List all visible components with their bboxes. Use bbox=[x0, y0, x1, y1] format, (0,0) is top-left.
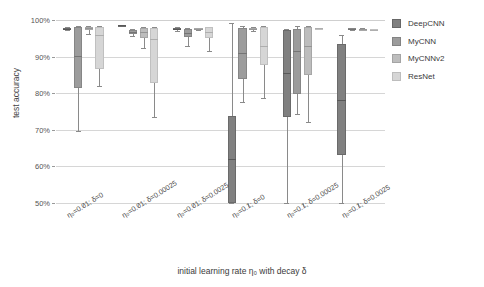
y-tick-label: 50% bbox=[16, 199, 50, 208]
whisker-cap-low bbox=[185, 46, 190, 47]
y-tick-label: 60% bbox=[16, 162, 50, 171]
boxplot-median bbox=[283, 73, 291, 74]
boxplot-median bbox=[249, 29, 257, 30]
boxplot-median bbox=[129, 32, 137, 33]
boxplot-median bbox=[260, 46, 268, 47]
y-tick-mark bbox=[52, 203, 55, 204]
gridline bbox=[56, 93, 385, 94]
gridline bbox=[56, 57, 385, 58]
gridline bbox=[56, 203, 385, 204]
whisker-cap-low bbox=[229, 203, 234, 204]
legend-item-resnet[interactable]: ResNet bbox=[392, 69, 444, 84]
whisker-cap-low bbox=[97, 86, 102, 87]
x-tick-label: η₀=0.01; δ=0 bbox=[65, 190, 105, 220]
boxplot-median bbox=[238, 53, 246, 54]
legend-swatch-icon bbox=[392, 37, 401, 46]
gridline bbox=[56, 20, 385, 21]
legend-item-mycnn[interactable]: MyCNN bbox=[392, 34, 444, 49]
boxplot-median bbox=[173, 29, 181, 30]
whisker-cap-low bbox=[196, 30, 201, 31]
chart-legend: DeepCNNMyCNNMyCNNv2ResNet bbox=[392, 16, 444, 86]
whisker-cap-low bbox=[339, 203, 344, 204]
boxplot-median bbox=[150, 39, 158, 40]
boxplot-median bbox=[194, 29, 202, 30]
legend-swatch-icon bbox=[392, 72, 401, 81]
boxplot-box bbox=[304, 27, 312, 75]
whisker-cap-low bbox=[251, 31, 256, 32]
whisker-cap-low bbox=[130, 36, 135, 37]
whisker-cap-low bbox=[175, 31, 180, 32]
y-tick-label: 100% bbox=[16, 16, 50, 25]
y-tick-mark bbox=[52, 93, 55, 94]
y-tick-mark bbox=[52, 20, 55, 21]
whisker-cap-high bbox=[339, 35, 344, 36]
whisker-cap-low bbox=[295, 114, 300, 115]
legend-item-label: DeepCNN bbox=[408, 19, 444, 28]
y-tick-label: 90% bbox=[16, 52, 50, 61]
boxplot-median bbox=[228, 159, 236, 160]
x-tick-label: η₀=0.1; δ=0.00025 bbox=[285, 181, 340, 220]
whisker-cap-high bbox=[295, 26, 300, 27]
whisker-cap-low bbox=[207, 51, 212, 52]
boxplot-median bbox=[370, 30, 378, 31]
y-tick-label: 80% bbox=[16, 89, 50, 98]
whisker-cap-low bbox=[306, 122, 311, 123]
boxplot-median bbox=[348, 29, 356, 30]
boxplot-chart: test accuracy 50%60%70%80%90%100% η₀=0.0… bbox=[0, 0, 484, 287]
boxplot-median bbox=[359, 29, 367, 30]
legend-item-label: MyCNNv2 bbox=[408, 54, 444, 63]
whisker-cap-low bbox=[65, 30, 70, 31]
whisker-cap-high bbox=[229, 23, 234, 24]
x-tick-label: η₀=0.1; δ=0.0025 bbox=[340, 183, 392, 220]
y-tick-mark bbox=[52, 130, 55, 131]
x-axis-title: initial learning rate η₀ with decay δ bbox=[0, 266, 484, 276]
whisker-cap-low bbox=[152, 117, 157, 118]
boxplot-median bbox=[85, 28, 93, 29]
y-tick-mark bbox=[52, 57, 55, 58]
boxplot-median bbox=[293, 51, 301, 52]
boxplot-median bbox=[315, 28, 323, 29]
boxplot-median bbox=[74, 56, 82, 57]
gridline bbox=[56, 166, 385, 167]
boxplot-box bbox=[74, 27, 82, 88]
legend-swatch-icon bbox=[392, 54, 401, 63]
y-tick-label: 70% bbox=[16, 125, 50, 134]
legend-item-label: ResNet bbox=[408, 72, 435, 81]
boxplot-median bbox=[184, 33, 192, 34]
x-tick-label: η₀=0.01; δ=0.00025 bbox=[120, 178, 178, 219]
whisker-cap-low bbox=[240, 102, 245, 103]
whisker-cap-low bbox=[86, 34, 91, 35]
legend-item-mycnnv2[interactable]: MyCNNv2 bbox=[392, 51, 444, 66]
legend-item-label: MyCNN bbox=[408, 37, 436, 46]
boxplot-median bbox=[95, 35, 103, 36]
legend-swatch-icon bbox=[392, 19, 401, 28]
boxplot-median bbox=[304, 46, 312, 47]
boxplot-box bbox=[293, 29, 301, 94]
boxplot-median bbox=[63, 29, 71, 30]
boxplot-median bbox=[118, 25, 126, 26]
whisker-cap-low bbox=[284, 203, 289, 204]
legend-item-deepcnn[interactable]: DeepCNN bbox=[392, 16, 444, 31]
boxplot-median bbox=[205, 32, 213, 33]
whisker-cap-low bbox=[76, 131, 81, 132]
y-tick-mark bbox=[52, 166, 55, 167]
boxplot-median bbox=[337, 100, 345, 101]
boxplot-box bbox=[95, 27, 103, 69]
whisker-cap-low bbox=[261, 98, 266, 99]
x-tick-label: η₀=0.01; δ=0.0025 bbox=[175, 181, 230, 220]
boxplot-box bbox=[150, 28, 158, 83]
gridline bbox=[56, 130, 385, 131]
whisker-cap-low bbox=[141, 48, 146, 49]
boxplot-median bbox=[140, 32, 148, 33]
